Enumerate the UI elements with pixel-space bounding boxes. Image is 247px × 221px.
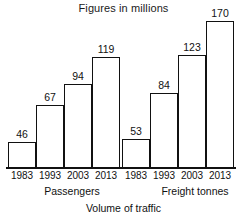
bar-value-freight-1993: 84 [150,80,178,91]
x-tick-freight-2013: 2013 [202,170,238,181]
bar-freight-1993 [150,93,178,168]
bar-passengers-1993 [36,105,64,168]
bar-value-passengers-2003: 94 [64,71,92,82]
bar-value-freight-2003: 123 [178,42,206,53]
x-axis-baseline [6,167,236,169]
bar-passengers-2003 [64,84,92,168]
bar-passengers-2013 [92,57,120,168]
bar-freight-2003 [178,55,206,168]
bar-value-freight-1983: 53 [122,126,150,137]
bar-value-passengers-2013: 119 [92,44,120,55]
bar-chart: Figures in millions 46 67 94 119 53 84 1… [0,0,247,221]
bar-passengers-1983 [8,142,36,168]
bar-value-passengers-1993: 67 [36,92,64,103]
bar-freight-1983 [122,139,150,168]
bar-value-freight-2013: 170 [206,8,234,19]
plot-area: 46 67 94 119 53 84 123 170 [0,0,247,175]
group-label-passengers: Passengers [22,185,122,197]
group-label-freight-tonnes: Freight tonnes [145,185,245,197]
x-axis-caption: Volume of traffic [0,202,247,214]
bar-freight-2013 [206,21,234,168]
bar-value-passengers-1983: 46 [8,129,36,140]
